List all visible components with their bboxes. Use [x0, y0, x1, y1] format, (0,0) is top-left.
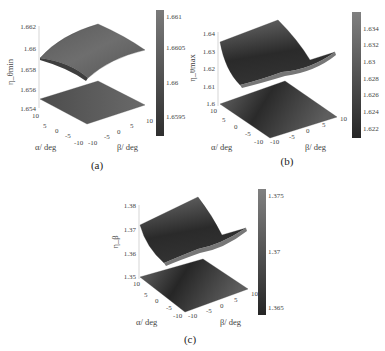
x-tick: -10 [254, 138, 264, 146]
colorbar-tick: 1.628 [363, 75, 379, 83]
y-tick: -5 [289, 133, 295, 141]
caption: (c) [184, 333, 197, 346]
y-tick: 5 [234, 296, 238, 304]
colorbar-tick: 1.634 [363, 25, 379, 33]
surface-plot-a: 1.662 1.66 1.658 1.656 1.654 η_θmin 10 5… [0, 0, 190, 175]
x-tick: -5 [65, 132, 71, 140]
colorbar [352, 12, 361, 138]
z-tick: 1.64 [203, 30, 216, 38]
x-tick: -10 [173, 312, 183, 320]
colorbar-tick: 1.632 [363, 41, 379, 49]
colorbar-tick: 1.6605 [166, 44, 186, 52]
x-tick: -5 [166, 304, 172, 312]
y-tick: 5 [130, 122, 134, 130]
z-axis-label: η_θmax [190, 54, 197, 82]
colorbar-tick: 1.6595 [166, 113, 186, 121]
colorbar-tick: 1.37 [268, 248, 281, 256]
colorbar-tick: 1.626 [363, 91, 379, 99]
surface-plot-c: 1.38 1.37 1.36 1.35 η_β 10 5 0 -5 -10 α/… [100, 175, 300, 351]
colorbar-tick: 1.63 [363, 58, 376, 66]
x-tick: -5 [245, 130, 251, 138]
y-tick: 10 [146, 117, 154, 125]
z-tick: 1.62 [203, 65, 216, 73]
colorbar-tick: 1.375 [268, 192, 284, 200]
x-tick: 0 [234, 123, 238, 131]
y-tick: -5 [206, 307, 212, 315]
y-tick: -10 [88, 139, 98, 147]
y-tick: -10 [270, 138, 280, 146]
x-tick: 5 [43, 122, 47, 130]
y-tick: -10 [188, 312, 198, 320]
z-tick: 1.658 [20, 66, 36, 74]
colorbar-tick: 1.365 [268, 304, 284, 312]
z-tick: 1.61 [203, 83, 216, 91]
y-axis-label: β/ deg [117, 142, 139, 152]
y-tick: 0 [220, 302, 224, 310]
x-tick: -10 [74, 139, 84, 147]
x-tick: 10 [133, 280, 141, 288]
x-tick: 5 [222, 116, 226, 124]
z-tick: 1.36 [124, 250, 137, 258]
colorbar-tick: 1.66 [166, 79, 179, 87]
x-tick: 0 [155, 297, 159, 305]
y-tick: 0 [117, 128, 121, 136]
x-tick: 0 [55, 127, 59, 135]
z-tick: 1.63 [203, 48, 216, 56]
colorbar-tick: 1.624 [363, 108, 379, 116]
colorbar-tick: 1.622 [363, 125, 379, 133]
chart-panel-b: 1.64 1.63 1.62 1.61 1.6 η_θmax 10 5 0 -5… [190, 0, 385, 175]
y-tick: 10 [340, 115, 348, 123]
y-tick: 5 [322, 121, 326, 129]
x-axis-label: α/ deg [136, 317, 158, 327]
colorbar [258, 189, 266, 315]
x-tick: 5 [144, 291, 148, 299]
z-tick: 1.66 [24, 45, 37, 53]
x-axis-label: α/ deg [35, 142, 57, 152]
z-axis-label: η_β [110, 235, 120, 248]
y-axis-label: β/ deg [220, 317, 242, 327]
z-tick: 1.662 [20, 23, 36, 31]
z-tick: 1.37 [124, 226, 137, 234]
caption: (b) [281, 155, 294, 168]
caption: (a) [91, 159, 104, 172]
y-tick: 10 [251, 290, 259, 298]
y-axis-label: β/ deg [305, 142, 327, 152]
chart-panel-c: 1.38 1.37 1.36 1.35 η_β 10 5 0 -5 -10 α/… [100, 175, 300, 351]
y-tick: 0 [306, 127, 310, 135]
x-axis-label: α/ deg [211, 142, 233, 152]
colorbar [156, 10, 164, 136]
surface-plot-b: 1.64 1.63 1.62 1.61 1.6 η_θmax 10 5 0 -5… [190, 0, 385, 175]
z-tick: 1.656 [20, 86, 36, 94]
z-axis-label: η_θmin [5, 58, 15, 85]
x-tick: 10 [210, 107, 218, 115]
x-tick: 10 [32, 112, 40, 120]
y-tick: -5 [104, 133, 110, 141]
chart-panel-a: 1.662 1.66 1.658 1.656 1.654 η_θmin 10 5… [0, 0, 190, 175]
z-tick: 1.38 [124, 202, 137, 210]
colorbar-tick: 1.661 [166, 13, 182, 21]
